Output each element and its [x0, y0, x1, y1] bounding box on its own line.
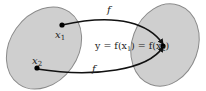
arrow-label-f-top: f [106, 4, 113, 15]
function-mapping-diagram: x1 x2 f f y = f(x1) = f(x2) [0, 0, 206, 91]
domain-set [0, 0, 97, 91]
point-x1 [59, 22, 64, 27]
